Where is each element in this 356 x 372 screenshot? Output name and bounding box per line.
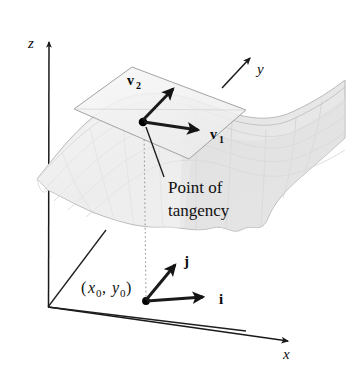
vector-i-label: i <box>219 291 223 307</box>
x-axis-line <box>48 307 288 341</box>
projection-base-line <box>48 307 246 331</box>
vector-j: j <box>146 253 189 300</box>
coord-comma: , <box>102 279 106 296</box>
vector-v2-label: v <box>127 73 134 88</box>
vector-j-label: j <box>183 253 189 269</box>
y-axis-label: y <box>255 61 264 77</box>
z-axis-label: z <box>27 35 34 51</box>
figure-canvas: z x <box>0 0 356 372</box>
vector-i-arrow <box>147 297 203 301</box>
coord-paren-open: ( <box>81 279 86 297</box>
vector-j-arrow <box>146 265 175 300</box>
x-axis: x <box>48 307 290 362</box>
base-point-coordinate-label: ( x 0 , y 0 ) <box>81 279 131 299</box>
x-axis-label: x <box>282 346 290 362</box>
vector-v1-subscript: 1 <box>219 134 224 145</box>
coord-paren-close: ) <box>126 279 131 297</box>
projection-lines <box>48 230 246 331</box>
y-axis-line <box>222 58 250 88</box>
tangent-plane-figure: z x <box>0 0 356 372</box>
vector-i: i <box>147 291 223 307</box>
coord-y-var: y <box>110 279 120 297</box>
y-axis: y <box>222 58 264 88</box>
callout-line-2: tangency <box>168 201 230 220</box>
callout-line-1: Point of <box>168 178 223 197</box>
coord-x-var: x <box>87 279 95 296</box>
vector-v1-label: v <box>210 127 217 142</box>
vector-v2-subscript: 2 <box>136 80 141 91</box>
